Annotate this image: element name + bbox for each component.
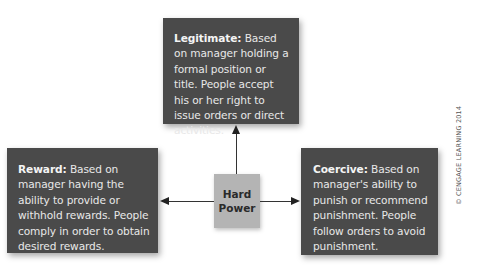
reward-power-box: Reward: Based on manager having the abil… [7, 148, 158, 253]
arrow-up-icon [232, 125, 240, 134]
hard-power-center-box: Hard Power [214, 174, 260, 228]
legitimate-description: Based on manager holding a formal positi… [174, 32, 289, 136]
arrow-up-line [236, 131, 237, 174]
hard-power-diagram: Legitimate: Based on manager holding a f… [0, 0, 478, 278]
coercive-power-box: Coercive: Based on manager's ability to … [301, 148, 438, 255]
coercive-description: Based on manager's ability to punish or … [313, 163, 428, 252]
arrow-left-line [168, 201, 214, 202]
center-label-line1: Hard [219, 187, 256, 201]
copyright-notice: © CENGAGE LEARNING 2014 [455, 106, 463, 205]
arrow-left-icon [160, 197, 169, 205]
reward-description: Based on manager having the ability to p… [18, 163, 150, 252]
arrow-right-line [260, 201, 292, 202]
arrow-right-icon [291, 197, 300, 205]
center-label-line2: Power [219, 201, 256, 215]
reward-term: Reward: [18, 163, 67, 175]
legitimate-term: Legitimate: [174, 32, 241, 44]
coercive-term: Coercive: [313, 163, 368, 175]
legitimate-power-box: Legitimate: Based on manager holding a f… [163, 18, 299, 124]
